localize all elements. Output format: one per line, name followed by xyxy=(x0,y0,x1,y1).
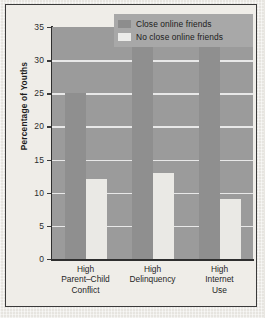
legend-swatch-close-online-friends xyxy=(118,20,131,28)
gridline xyxy=(52,60,253,62)
bar xyxy=(220,199,241,259)
bar xyxy=(132,27,153,259)
x-axis-category-label: HighInternetUse xyxy=(175,264,265,295)
legend-label: Close online friends xyxy=(136,19,212,29)
bar xyxy=(153,173,174,259)
bar xyxy=(65,93,86,259)
y-axis-tick-label: 25 xyxy=(16,88,44,98)
figure-frame: Percentage of Youths 05101520253035 High… xyxy=(5,4,257,307)
x-axis-category-line: Internet xyxy=(175,274,265,284)
y-axis-tick-label: 15 xyxy=(16,155,44,165)
x-axis-category-line: Conflict xyxy=(41,285,131,295)
legend-item: Close online friends xyxy=(118,17,249,30)
bar xyxy=(86,179,107,259)
figure-page: Percentage of Youths 05101520253035 High… xyxy=(0,0,264,318)
y-axis-tick-label: 35 xyxy=(16,22,44,32)
bar xyxy=(199,27,220,259)
legend-label: No close online friends xyxy=(136,32,223,42)
y-axis-tick-label: 5 xyxy=(16,221,44,231)
legend-item: No close online friends xyxy=(118,30,249,43)
y-axis-tick-label: 30 xyxy=(16,55,44,65)
legend: Close online friends No close online fri… xyxy=(114,14,253,47)
x-axis-line xyxy=(51,259,254,261)
y-axis-tick-label: 0 xyxy=(16,254,44,264)
plot-area xyxy=(52,27,253,259)
y-axis-tick-label: 10 xyxy=(16,188,44,198)
y-axis-tick-label: 20 xyxy=(16,121,44,131)
x-axis-category-line: High xyxy=(175,264,265,274)
legend-swatch-no-close-online-friends xyxy=(118,33,131,41)
x-axis-category-line: Use xyxy=(175,285,265,295)
